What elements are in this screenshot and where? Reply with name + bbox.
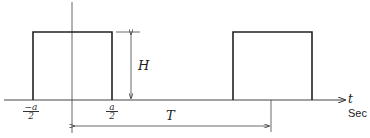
height-label: H [138, 58, 149, 73]
right-edge-label: a 2 [105, 103, 119, 120]
pulse-2 [233, 32, 312, 100]
time-axis-label: t Sec [348, 92, 370, 120]
period-label: T [166, 108, 175, 123]
pulse-train-diagram [0, 0, 370, 138]
left-edge-label: −a 2 [22, 103, 40, 120]
